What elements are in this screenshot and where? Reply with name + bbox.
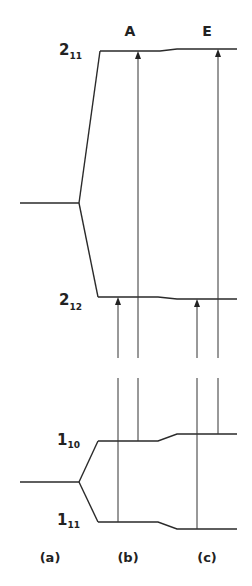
column-header-a: A	[125, 23, 136, 39]
arrowhead-icon	[215, 49, 221, 57]
energy-level-diagram: A E 211 212 110 111 (a) (b) (c)	[0, 0, 252, 586]
lower-split-down	[79, 482, 98, 522]
level-1-10-line	[98, 434, 237, 441]
lower-split-up	[79, 441, 98, 482]
label-1-11: 111	[57, 511, 80, 530]
column-label-a: (a)	[40, 550, 61, 565]
level-1-11-line	[98, 522, 237, 529]
column-label-b: (b)	[117, 550, 138, 565]
column-header-e: E	[202, 23, 212, 39]
upper-split-up	[79, 51, 100, 203]
level-2-12-line	[98, 297, 237, 299]
level-2-11-line	[100, 49, 237, 51]
upper-split-down	[79, 203, 98, 297]
arrowhead-icon	[135, 51, 141, 59]
label-2-12: 212	[59, 291, 82, 312]
arrowhead-icon	[194, 299, 200, 307]
column-label-c: (c)	[197, 550, 217, 565]
label-2-11: 211	[59, 41, 82, 61]
arrowhead-icon	[115, 297, 121, 305]
label-1-10: 110	[57, 431, 80, 450]
